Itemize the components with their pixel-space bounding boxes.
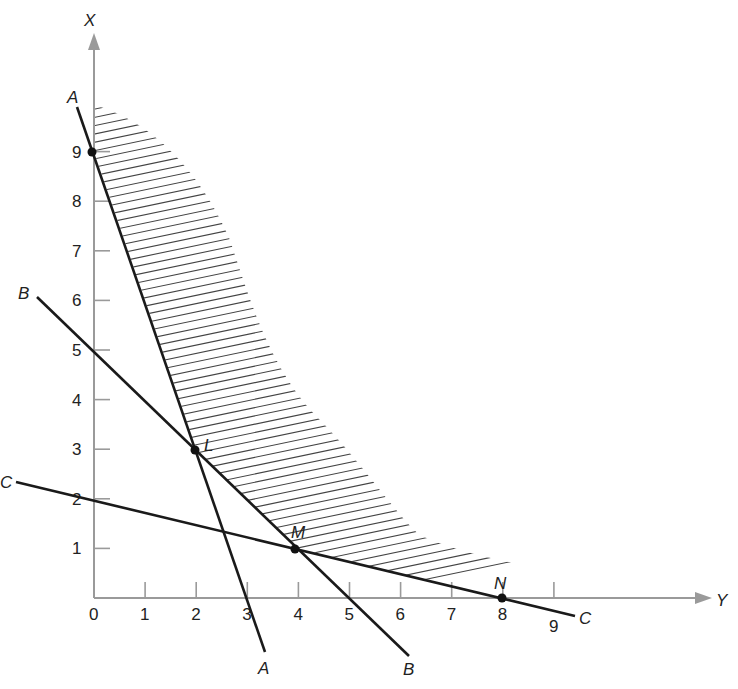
- point-a-intercept: [88, 148, 97, 157]
- axes: [94, 45, 700, 598]
- vertical-tick-label: 4: [72, 391, 81, 410]
- vertical-tick-label: 6: [72, 291, 81, 310]
- vertical-tick-label: 9: [72, 143, 81, 162]
- vertical-tick-label: 3: [72, 440, 81, 459]
- vertical-tick-label: 1: [72, 539, 81, 558]
- horizontal-tick-label: 5: [345, 605, 354, 624]
- vertical-ticks: [94, 152, 110, 549]
- line-a-start-label: A: [66, 88, 78, 107]
- diagram-canvas: 123456789 0123456789 X Y A A B B C C L M…: [0, 0, 738, 689]
- vertical-tick-label: 5: [72, 341, 81, 360]
- point-m: [291, 545, 300, 554]
- vertical-axis-arrow-icon: [88, 33, 100, 50]
- vertical-tick-label: 8: [72, 192, 81, 211]
- horizontal-tick-label: 8: [498, 605, 507, 624]
- vertical-tick-label: 7: [72, 242, 81, 261]
- point-n-label: N: [494, 574, 507, 593]
- line-b: [37, 297, 409, 656]
- horizontal-tick-label: 0: [89, 605, 98, 624]
- point-l: [191, 446, 200, 455]
- line-a: [77, 107, 265, 652]
- vertical-axis-label: X: [83, 11, 96, 30]
- horizontal-tick-label: 9: [549, 617, 558, 636]
- horizontal-tick-label: 6: [396, 605, 405, 624]
- line-c-end-label: C: [579, 609, 592, 628]
- horizontal-tick-label: 2: [191, 605, 200, 624]
- horizontal-tick-label: 7: [447, 605, 456, 624]
- horizontal-axis-arrow-icon: [695, 592, 712, 604]
- horizontal-tick-label: 1: [140, 605, 149, 624]
- horizontal-axis-label: Y: [716, 591, 729, 610]
- horizontal-tick-label: 4: [293, 605, 302, 624]
- feasible-region-hatching: [60, 0, 720, 656]
- line-c-start-label: C: [0, 473, 13, 492]
- vertical-tick-label: 2: [72, 490, 81, 509]
- line-b-end-label: B: [403, 660, 414, 679]
- line-b-start-label: B: [18, 284, 29, 303]
- point-n: [498, 594, 507, 603]
- point-m-label: M: [291, 523, 306, 542]
- point-l-label: L: [204, 436, 213, 455]
- line-a-end-label: A: [257, 659, 269, 678]
